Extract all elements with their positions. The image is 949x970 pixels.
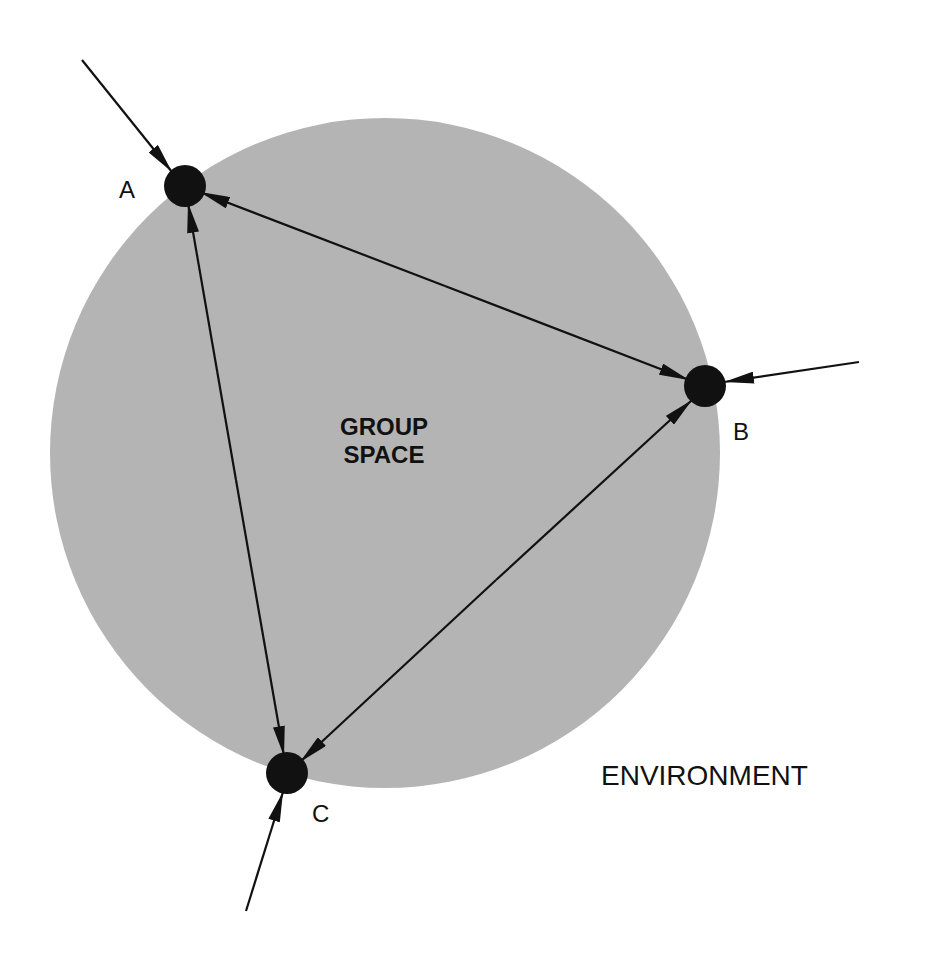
node-b-label: B [733,418,749,446]
node-a-label: A [119,176,135,204]
group-space-label-line2: SPACE [314,441,454,469]
input-to-c [246,792,283,911]
group-space-label: GROUP SPACE [314,413,454,469]
group-space-label-line1: GROUP [314,413,454,441]
node-c-label: C [312,800,329,828]
group-space-diagram: A B C GROUP SPACE ENVIRONMENT [0,0,949,970]
node-c [266,752,308,794]
diagram-graphic [0,0,949,970]
node-b [684,365,726,407]
input-to-a [82,60,172,172]
node-a [164,165,206,207]
environment-label: ENVIRONMENT [601,760,808,792]
input-to-b [724,362,859,382]
